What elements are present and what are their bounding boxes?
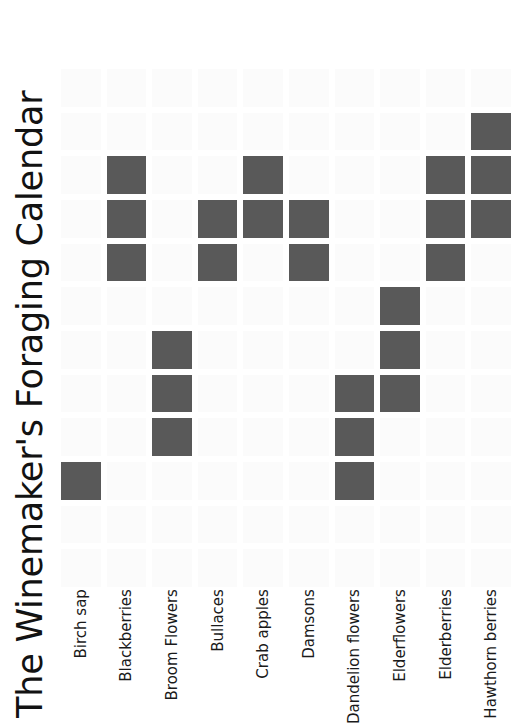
heatmap-cell [61, 549, 101, 587]
heatmap-cell [335, 156, 375, 194]
heatmap-cell [426, 506, 466, 544]
heatmap-cell [380, 549, 420, 587]
heatmap-cell [152, 331, 192, 369]
page-title: The Winemaker's Foraging Calendar [8, 0, 52, 724]
y-axis-tick-label: Elderflowers [377, 581, 423, 724]
heatmap-cell [289, 418, 329, 456]
y-axis-plant-labels: Birch sapBlackberriesBroom FlowersBullac… [58, 596, 514, 724]
heatmap-cell [152, 462, 192, 500]
heatmap-cell [426, 375, 466, 413]
y-axis-tick-label: Elderberries [423, 581, 469, 724]
heatmap-cell [152, 549, 192, 587]
y-axis-tick-label: Broom Flowers [149, 581, 195, 724]
heatmap-cell [335, 200, 375, 238]
heatmap-cell [198, 462, 238, 500]
heatmap-cell [335, 331, 375, 369]
heatmap-cell [107, 287, 147, 325]
heatmap-cell [61, 244, 101, 282]
heatmap-cell [335, 113, 375, 151]
heatmap-cell [380, 287, 420, 325]
heatmap-cell [61, 113, 101, 151]
heatmap-cell [471, 462, 511, 500]
heatmap-cell [471, 244, 511, 282]
heatmap-cell [471, 418, 511, 456]
heatmap-cell [471, 113, 511, 151]
heatmap-cell [380, 200, 420, 238]
heatmap-cell [380, 331, 420, 369]
heatmap-cell [243, 156, 283, 194]
heatmap-cell [289, 200, 329, 238]
heatmap-cell [243, 418, 283, 456]
heatmap-cell [380, 418, 420, 456]
heatmap-cell [289, 462, 329, 500]
heatmap-cell [471, 549, 511, 587]
heatmap-cell [335, 462, 375, 500]
heatmap-cell [289, 549, 329, 587]
heatmap-cell [198, 331, 238, 369]
heatmap-cell [61, 156, 101, 194]
y-axis-tick-label: Blackberries [104, 581, 150, 724]
heatmap-cell [152, 506, 192, 544]
heatmap-cell [243, 287, 283, 325]
heatmap-cell [152, 156, 192, 194]
heatmap-cell [61, 506, 101, 544]
heatmap-cell [335, 549, 375, 587]
heatmap-cell [471, 506, 511, 544]
heatmap-cell [289, 156, 329, 194]
figure-rotator: The Winemaker's Foraging Calendar Birch … [0, 0, 514, 724]
heatmap-cell [107, 375, 147, 413]
y-axis-tick-label: Bullaces [195, 581, 241, 724]
heatmap-cell [107, 69, 147, 107]
heatmap-cell [243, 506, 283, 544]
heatmap-cell [152, 200, 192, 238]
heatmap-cell [107, 200, 147, 238]
heatmap-cell [198, 549, 238, 587]
heatmap-cell [380, 113, 420, 151]
heatmap-cell [107, 113, 147, 151]
heatmap-cell [243, 331, 283, 369]
heatmap-cell [471, 331, 511, 369]
heatmap-cell [426, 462, 466, 500]
heatmap-cell [152, 375, 192, 413]
heatmap-cell [107, 244, 147, 282]
y-axis-tick-label: Dandelion flowers [332, 581, 378, 724]
heatmap-cell [335, 506, 375, 544]
heatmap-grid [58, 66, 514, 590]
heatmap-cell [243, 200, 283, 238]
heatmap-cell [471, 69, 511, 107]
heatmap-cell [107, 331, 147, 369]
heatmap-cell [289, 287, 329, 325]
heatmap-plot-area: Birch sapBlackberriesBroom FlowersBullac… [58, 66, 514, 590]
heatmap-cell [289, 113, 329, 151]
heatmap-cell [471, 287, 511, 325]
heatmap-cell [380, 244, 420, 282]
heatmap-cell [198, 375, 238, 413]
heatmap-cell [426, 156, 466, 194]
heatmap-cell [61, 462, 101, 500]
heatmap-cell [198, 156, 238, 194]
heatmap-cell [380, 462, 420, 500]
heatmap-cell [289, 331, 329, 369]
heatmap-cell [152, 287, 192, 325]
heatmap-cell [426, 244, 466, 282]
heatmap-cell [152, 418, 192, 456]
heatmap-cell [380, 506, 420, 544]
heatmap-cell [426, 418, 466, 456]
heatmap-cell [152, 69, 192, 107]
heatmap-cell [198, 113, 238, 151]
heatmap-cell [243, 375, 283, 413]
heatmap-cell [335, 287, 375, 325]
heatmap-cell [61, 418, 101, 456]
heatmap-cell [289, 69, 329, 107]
heatmap-cell [471, 375, 511, 413]
heatmap-cell [243, 113, 283, 151]
heatmap-cell [107, 506, 147, 544]
heatmap-cell [198, 418, 238, 456]
y-axis-tick-label: Crab apples [240, 581, 286, 724]
heatmap-cell [243, 462, 283, 500]
heatmap-cell [198, 200, 238, 238]
heatmap-cell [198, 244, 238, 282]
heatmap-cell [426, 69, 466, 107]
heatmap-cell [380, 156, 420, 194]
heatmap-cell [380, 69, 420, 107]
